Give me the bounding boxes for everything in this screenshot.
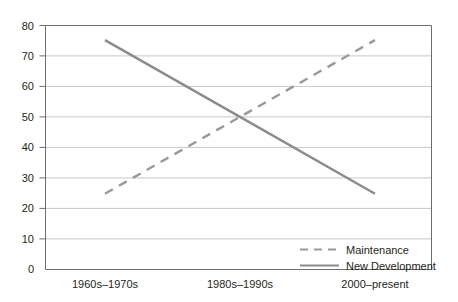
chart-container: 80 70 60 50 40 30 20 10 0 1960s–1970s 19… xyxy=(0,0,458,302)
legend-label-maintenance: Maintenance xyxy=(346,244,409,256)
ytick-label-10: 10 xyxy=(22,233,34,245)
line-chart: 80 70 60 50 40 30 20 10 0 1960s–1970s 19… xyxy=(0,0,458,302)
xtick-label-1: 1980s–1990s xyxy=(207,278,274,290)
ytick-label-40: 40 xyxy=(22,141,34,153)
ytick-label-60: 60 xyxy=(22,80,34,92)
y-axis-ticks xyxy=(40,26,46,239)
legend-label-new-development: New Development xyxy=(346,260,436,272)
ytick-label-50: 50 xyxy=(22,111,34,123)
xtick-label-0: 1960s–1970s xyxy=(72,278,139,290)
ytick-label-80: 80 xyxy=(22,20,34,32)
ytick-label-70: 70 xyxy=(22,50,34,62)
ytick-label-20: 20 xyxy=(22,202,34,214)
ytick-label-30: 30 xyxy=(22,172,34,184)
xtick-label-2: 2000–present xyxy=(341,278,408,290)
ytick-label-0: 0 xyxy=(28,263,34,275)
